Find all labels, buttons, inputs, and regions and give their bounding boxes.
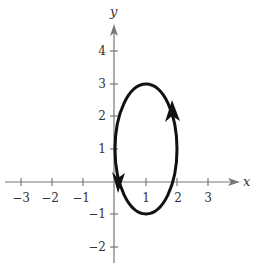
x-axis-label: x — [243, 174, 251, 189]
x-tick-label: −3 — [12, 191, 30, 205]
x-tick-label: −1 — [72, 191, 90, 205]
x-tick-label: 3 — [204, 191, 212, 205]
x-tick-label: 2 — [174, 191, 182, 205]
y-tick-label: 2 — [98, 109, 106, 123]
y-tick-label: 1 — [98, 142, 106, 156]
chart: x y −3 −2 −1 1 2 3 4 3 2 1 −1 −2 — [0, 0, 258, 272]
x-tick-label: 1 — [142, 191, 150, 205]
y-tick-label: −1 — [88, 207, 106, 221]
y-axis-label: y — [109, 4, 118, 19]
y-tick-label: −2 — [88, 240, 106, 254]
x-tick-label: −2 — [41, 191, 59, 205]
y-tick-label: 3 — [98, 77, 106, 91]
y-tick-label: 4 — [98, 44, 106, 58]
